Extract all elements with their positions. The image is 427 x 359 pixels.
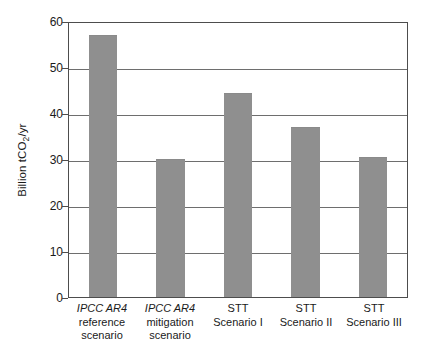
bar-series <box>69 23 407 297</box>
y-axis-tick-mark <box>62 160 68 161</box>
bar[interactable] <box>156 159 184 297</box>
bar[interactable] <box>359 157 387 297</box>
plot-area <box>68 22 408 298</box>
x-axis-category-label: IPCC AR4referencescenario <box>68 302 136 343</box>
x-axis-category-label-line: Scenario I <box>204 316 272 330</box>
bar-slot <box>339 23 407 297</box>
x-axis-category-label-line: mitigation <box>136 316 204 330</box>
y-axis-tick-mark <box>62 298 68 299</box>
x-axis-category-label: STTScenario I <box>204 302 272 343</box>
x-axis-category-label: STTScenario II <box>272 302 340 343</box>
x-axis-category-label-line: IPCC AR4 <box>136 302 204 316</box>
bar-slot <box>272 23 340 297</box>
y-axis-tick-mark <box>62 22 68 23</box>
x-axis-category-label-line: Scenario III <box>340 316 408 330</box>
x-axis-category-label-line: scenario <box>68 329 136 343</box>
bar[interactable] <box>89 35 117 297</box>
x-axis-category-label-line: scenario <box>136 329 204 343</box>
x-axis-category-label: STTScenario III <box>340 302 408 343</box>
x-axis-category-label-line: Scenario II <box>272 316 340 330</box>
y-axis-tick-mark <box>62 68 68 69</box>
bar-chart-figure: Billion tCO2/yr 0102030405060 IPCC AR4re… <box>0 0 427 359</box>
x-axis-category-labels: IPCC AR4referencescenarioIPCC AR4mitigat… <box>68 302 408 343</box>
y-axis-tick-mark <box>62 114 68 115</box>
y-axis-tick-mark <box>62 252 68 253</box>
x-axis-category-label-line: reference <box>68 316 136 330</box>
bar-slot <box>137 23 205 297</box>
x-axis-category-label-line: IPCC AR4 <box>68 302 136 316</box>
x-axis-category-label: IPCC AR4mitigationscenario <box>136 302 204 343</box>
x-axis-category-label-line: STT <box>272 302 340 316</box>
bar-slot <box>69 23 137 297</box>
bar-slot <box>204 23 272 297</box>
x-axis-category-label-line: STT <box>340 302 408 316</box>
y-axis-tick-mark <box>62 206 68 207</box>
bar[interactable] <box>291 127 319 297</box>
y-axis-tick-labels: 0102030405060 <box>28 0 68 359</box>
bar[interactable] <box>224 93 252 297</box>
x-axis-category-label-line: STT <box>204 302 272 316</box>
